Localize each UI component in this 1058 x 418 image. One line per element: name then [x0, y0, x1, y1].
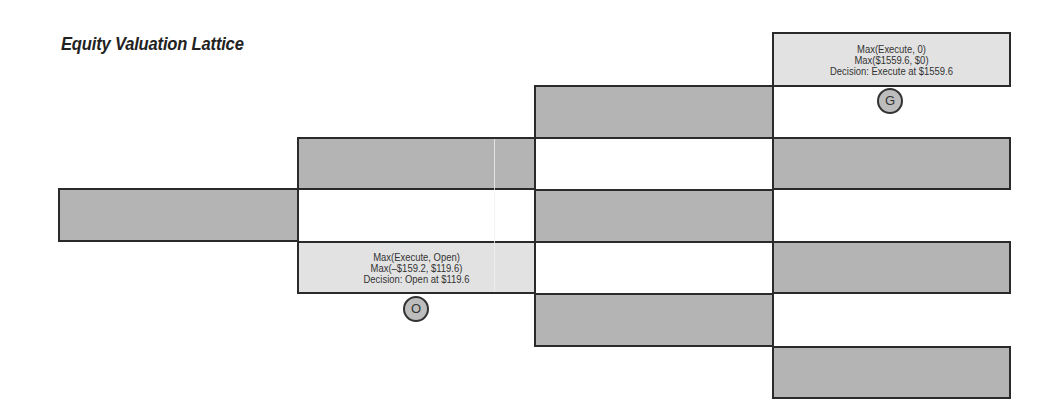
node-badge-o: O — [403, 296, 429, 322]
lattice-node-c4r3 — [772, 241, 1011, 294]
lattice-node-c2r2-decision: Max(Execute, Open) Max(–$159.2, $119.6) … — [297, 241, 536, 294]
lattice-node-c2r1 — [297, 137, 536, 190]
lattice-node-c1r1 — [58, 188, 299, 242]
node-c2r2-label: Max(Execute, Open) Max(–$159.2, $119.6) … — [299, 251, 534, 284]
node-c4r1-line-3: Decision: Execute at $1559.6 — [786, 65, 998, 76]
scan-line-artifact — [494, 139, 495, 292]
lattice-node-c3r3 — [534, 293, 774, 347]
node-badge-g: G — [877, 88, 903, 114]
node-c2r2-line-3: Decision: Open at $119.6 — [311, 273, 523, 284]
lattice-node-c4r2 — [772, 137, 1011, 190]
lattice-node-c4r1-decision: Max(Execute, 0) Max($1559.6, $0) Decisio… — [772, 32, 1011, 87]
lattice-node-c3r1 — [534, 85, 774, 139]
node-c4r1-label: Max(Execute, 0) Max($1559.6, $0) Decisio… — [774, 43, 1009, 76]
diagram-title: Equity Valuation Lattice — [61, 34, 244, 55]
lattice-node-c3r2 — [534, 189, 774, 243]
lattice-node-c4r4 — [772, 346, 1011, 399]
